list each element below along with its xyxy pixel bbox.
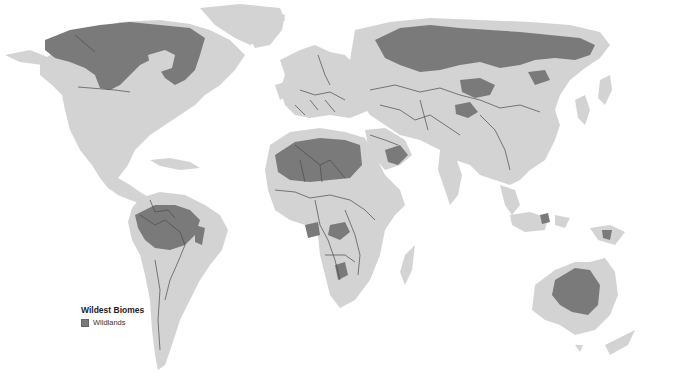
legend-title: Wildest Biomes xyxy=(81,305,144,315)
australia xyxy=(532,258,635,355)
legend-item-wildlands: Wildlands xyxy=(81,318,144,327)
legend-item-label: Wildlands xyxy=(93,318,126,327)
japan xyxy=(598,75,612,105)
southeast-asia xyxy=(510,212,625,245)
north-america xyxy=(5,4,285,205)
south-america xyxy=(128,192,228,370)
wildlands-swatch-icon xyxy=(81,319,89,327)
legend: Wildest Biomes Wildlands xyxy=(81,305,144,327)
